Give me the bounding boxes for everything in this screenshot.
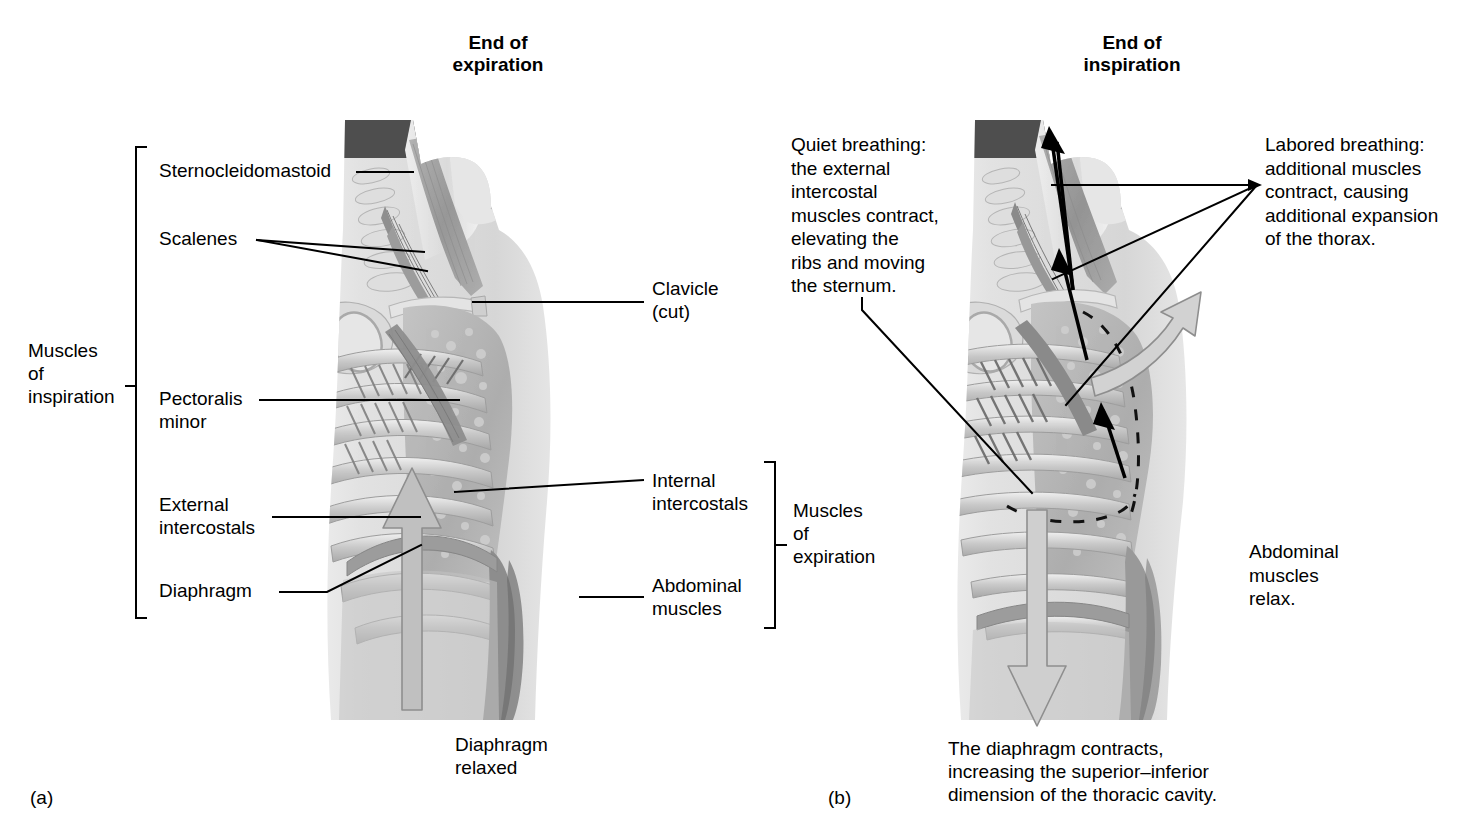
note-abdominal-muscles-relax: Abdominal muscles relax. [1249, 540, 1419, 611]
panel-b-caption: The diaphragm contracts, increasing the … [948, 737, 1308, 807]
label-scalenes: Scalenes [159, 228, 237, 251]
muscles-of-inspiration-label: Muscles of inspiration [28, 340, 138, 408]
label-abdominal-muscles: Abdominal muscles [652, 575, 742, 621]
label-sternocleidomastoid: Sternocleidomastoid [159, 160, 331, 183]
muscles-of-expiration-label: Muscles of expiration [793, 500, 903, 568]
panel-a-letter: (a) [30, 787, 53, 809]
panel-b-heading: End of inspiration [1012, 32, 1252, 76]
label-internal-intercostals: Internal intercostals [652, 470, 748, 516]
label-pectoralis-minor: Pectoralis minor [159, 388, 242, 434]
note-labored-breathing: Labored breathing: additional muscles co… [1265, 133, 1479, 251]
panel-a-illustration [285, 110, 585, 730]
respiratory-muscles-figure: End of expiration Muscles of inspiration… [0, 0, 1479, 835]
labored-breathing-arrowhead [1248, 179, 1262, 191]
label-external-intercostals: External intercostals [159, 494, 255, 540]
panel-a-heading: End of expiration [378, 32, 618, 76]
label-clavicle-cut: Clavicle (cut) [652, 278, 719, 324]
panel-a-caption: Diaphragm relaxed [455, 733, 675, 779]
label-diaphragm: Diaphragm [159, 580, 252, 603]
note-quiet-breathing: Quiet breathing: the external intercosta… [791, 133, 966, 298]
panel-b-letter: (b) [828, 787, 851, 809]
